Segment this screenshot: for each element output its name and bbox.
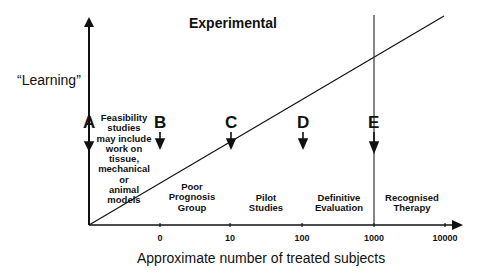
marker-c: C — [225, 113, 237, 133]
x-axis-arrow-icon — [452, 220, 463, 230]
x-tick-10000: 10000 — [432, 233, 457, 243]
diagram-canvas — [0, 0, 479, 279]
y-axis-arrow-icon — [84, 17, 94, 27]
phase-pilot-label: Pilot Studies — [240, 193, 292, 214]
x-tick-100: 100 — [294, 233, 309, 243]
phase-definitive-label: Definitive Evaluation — [309, 193, 369, 214]
x-axis-label: Approximate number of treated subjects — [137, 250, 385, 266]
diagram-title: Experimental — [189, 15, 277, 31]
marker-e: E — [368, 113, 379, 133]
x-tick-0: 0 — [157, 233, 162, 243]
phase-poor-prognosis-label: Poor Prognosis Group — [166, 182, 218, 213]
x-tick-10: 10 — [225, 233, 235, 243]
y-axis-label: “Learning” — [17, 72, 81, 88]
phase-feasibility-label: Feasibility studies may include work on … — [96, 113, 152, 205]
x-tick-1000: 1000 — [364, 233, 384, 243]
marker-b: B — [154, 113, 166, 133]
marker-a: A — [83, 113, 95, 133]
marker-d: D — [297, 113, 309, 133]
phase-recognised-label: Recognised Therapy — [380, 193, 444, 214]
